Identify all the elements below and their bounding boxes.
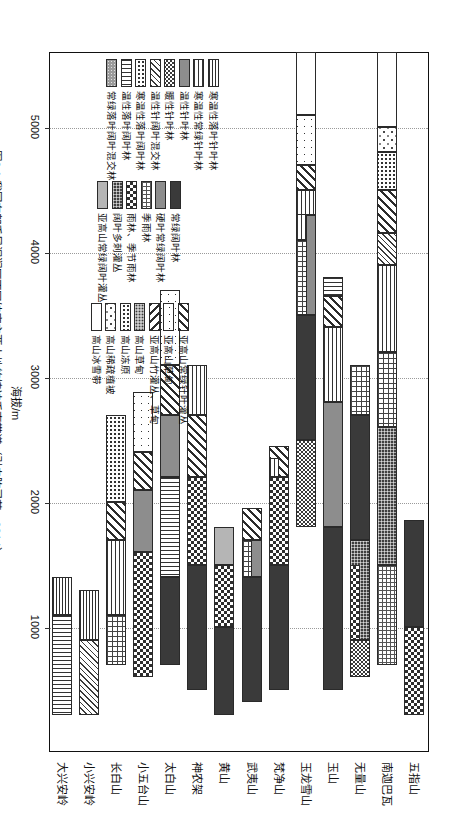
bar-segment	[106, 540, 126, 615]
category-label: 大兴安岭	[55, 762, 71, 806]
legend-item: 温性针阔叶混交林	[149, 59, 162, 181]
bar-segment	[296, 190, 316, 215]
legend-swatch	[136, 59, 147, 87]
legend-item: 温性落叶阔叶林	[120, 59, 133, 181]
bar-row	[296, 53, 316, 753]
bar-segment	[306, 215, 316, 315]
bar-segment	[160, 477, 180, 577]
legend-item: 暖性针叶林	[164, 59, 177, 181]
legend-label: 寒温性落叶针叶林	[208, 91, 219, 171]
legend-label: 亚高山常绿阔叶灌丛	[98, 213, 109, 303]
legend-item: 寒温性落叶针叶林	[207, 59, 220, 181]
legend-label: 寒温性常绿针叶林	[194, 91, 205, 171]
plot-area: 寒温性落叶针叶林寒温性常绿针叶林温性针叶林暖性针叶林温性针阔叶混交林寒温性落叶阔…	[49, 52, 429, 752]
legend-swatch	[208, 59, 219, 87]
legend-item: 常绿阔叶林	[169, 181, 182, 303]
bar-segment	[214, 627, 234, 715]
figure-caption: 图6.1 我国东部季风湿润区不同纬度主要山地的植被垂直带谱（引自陈灵芝，2014…	[0, 150, 5, 558]
legend-label: 温性针阔叶混交林	[150, 91, 161, 171]
legend-swatch	[164, 303, 175, 331]
bar-segment	[377, 265, 397, 353]
bar-segment	[323, 402, 343, 527]
legend-item: 阔叶多刺灌丛	[111, 181, 124, 303]
bar-segment	[79, 590, 99, 640]
legend-label: 高山稀疏植被	[106, 335, 117, 395]
bar-segment	[269, 477, 289, 565]
legend-item: 高山草甸	[134, 303, 147, 425]
bar-segment	[377, 52, 397, 127]
legend-label: 高山草甸	[135, 335, 146, 375]
tick-mark	[45, 628, 50, 629]
bar-segment	[133, 452, 153, 490]
legend-item: 硬叶常绿阔叶林	[155, 181, 168, 303]
bar-segment	[323, 327, 343, 402]
bar-segment	[79, 640, 99, 715]
tick-mark	[45, 128, 50, 129]
bar-segment	[296, 165, 316, 190]
rotated-stage: 寒温性落叶针叶林寒温性常绿针叶林温性针叶林暖性针叶林温性针阔叶混交林寒温性落叶阔…	[0, 0, 473, 822]
tick-label: 3000	[29, 365, 41, 389]
legend-swatch	[178, 303, 189, 331]
legend-swatch	[149, 303, 160, 331]
legend-swatch	[91, 303, 102, 331]
legend-item: 温性针叶林	[178, 59, 191, 181]
legend-label: 温性落叶阔叶林	[121, 91, 132, 161]
legend-group: 寒温性落叶针叶林寒温性常绿针叶林温性针叶林暖性针叶林温性针阔叶混交林寒温性落叶阔…	[104, 59, 220, 181]
category-label: 神农架	[190, 762, 206, 795]
bar-segment	[377, 127, 397, 152]
legend-item: 亚高山竹灌丛、草甸	[148, 303, 161, 425]
legend-group: 亚高山常绿针叶灌丛亚高山草甸亚高山竹灌丛、草甸高山草甸高山冻原高山稀疏植被高山冰…	[89, 303, 191, 425]
legend-swatch	[120, 303, 131, 331]
bar-segment	[296, 115, 316, 165]
legend-label: 硬叶常绿阔叶林	[156, 213, 167, 283]
legend-group: 常绿阔叶林硬叶常绿阔叶林季雨林雨林、季节雨林阔叶多刺灌丛亚高山常绿阔叶灌丛	[95, 181, 182, 303]
legend-label: 常绿落叶阔叶混交林	[107, 91, 118, 181]
category-label: 梵净山	[272, 762, 288, 795]
legend-label: 阔叶多刺灌丛	[112, 213, 123, 273]
bar-segment	[133, 490, 153, 553]
legend-label: 雨林、季节雨林	[127, 213, 138, 283]
legend-swatch	[98, 181, 109, 209]
bar-segment	[106, 415, 126, 503]
bar-segment	[377, 352, 397, 427]
category-label: 长白山	[109, 762, 125, 795]
figure-body: 寒温性落叶针叶林寒温性常绿针叶林温性针叶林暖性针叶林温性针阔叶混交林寒温性落叶阔…	[0, 0, 473, 822]
tick-label: 4000	[29, 240, 41, 264]
legend-label: 亚高山草甸	[164, 335, 175, 385]
category-label: 太白山	[163, 762, 179, 795]
bar-segment	[106, 502, 126, 540]
figure-canvas: 寒温性落叶针叶林寒温性常绿针叶林温性针叶林暖性针叶林温性针阔叶混交林寒温性落叶阔…	[0, 0, 473, 822]
bar-segment	[404, 520, 424, 628]
bar-segment	[214, 565, 234, 628]
tick-label: 5000	[29, 115, 41, 139]
bar-segment	[133, 552, 153, 677]
legend-label: 常绿阔叶林	[170, 213, 181, 263]
bar-segment	[214, 527, 234, 565]
legend-swatch	[165, 59, 176, 87]
legend-swatch	[135, 303, 146, 331]
legend-swatch	[106, 303, 117, 331]
legend-item: 亚高山草甸	[163, 303, 176, 425]
bar-row	[323, 53, 343, 753]
bar-row	[350, 53, 370, 753]
legend-item: 高山稀疏植被	[105, 303, 118, 425]
bar-segment	[377, 233, 397, 264]
category-label: 武夷山	[245, 762, 261, 795]
bar-segment	[377, 427, 397, 565]
axis-title: 海拔/m	[9, 386, 25, 420]
legend-swatch	[194, 59, 205, 87]
legend-item: 季雨林	[140, 181, 153, 303]
category-label: 玉龙雪山	[299, 762, 315, 806]
category-label: 玉山	[326, 762, 342, 784]
bar-segment	[187, 365, 207, 415]
legend-label: 亚高山竹灌丛、草甸	[149, 335, 160, 425]
legend-item: 高山冻原	[119, 303, 132, 425]
category-label: 无量山	[353, 762, 369, 795]
legend-item: 亚高山常绿阔叶灌丛	[97, 181, 110, 303]
bar-segment	[242, 540, 252, 578]
category-label: 黄山	[217, 762, 233, 784]
legend-item: 寒温性落叶阔叶林	[135, 59, 148, 181]
tick-label: 2000	[29, 490, 41, 514]
legend-label: 亚高山常绿针叶灌丛	[178, 335, 189, 425]
legend-item: 常绿落叶阔叶混交林	[106, 59, 119, 181]
